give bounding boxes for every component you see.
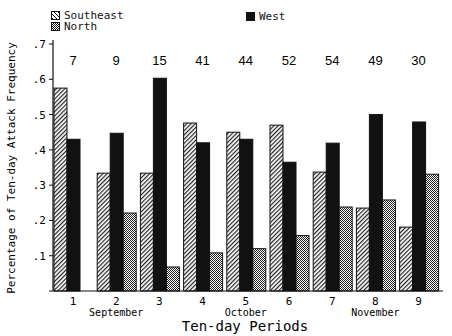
bar-west-9: [413, 122, 426, 291]
bar-southeast-2: [97, 173, 110, 291]
bar-north-4: [210, 253, 223, 291]
y-tick-label: .2: [33, 214, 46, 227]
x-tick-label: 4: [199, 295, 206, 308]
bar-west-3: [153, 78, 166, 291]
bar-north-7: [339, 207, 352, 291]
count-annotation: 54: [325, 53, 339, 68]
bar-west-2: [110, 133, 123, 291]
bar-southeast-3: [140, 173, 153, 291]
x-tick-label: 1: [70, 295, 77, 308]
x-tick-label: 7: [329, 295, 336, 308]
y-tick-label: .5: [33, 109, 46, 122]
bar-southeast-1: [54, 88, 67, 291]
x-axis-title: Ten-day Periods: [182, 318, 308, 334]
month-label: November: [351, 307, 399, 318]
bars-group: [54, 78, 439, 291]
bar-north-9: [426, 174, 439, 291]
bar-north-8: [382, 200, 395, 291]
month-label: September: [89, 307, 143, 318]
bar-southeast-9: [400, 227, 413, 291]
y-tick-label: .3: [33, 179, 46, 192]
count-annotation: 49: [368, 53, 382, 68]
x-tick-label: 3: [156, 295, 163, 308]
count-annotation: 15: [152, 53, 166, 68]
x-tick-label: 9: [415, 295, 422, 308]
bar-southeast-5: [227, 132, 240, 291]
bar-west-8: [369, 115, 382, 291]
bar-west-1: [67, 139, 80, 291]
month-label: October: [225, 307, 267, 318]
bar-west-7: [326, 143, 339, 291]
count-annotation: 41: [195, 53, 209, 68]
bar-west-6: [283, 162, 296, 291]
y-tick-label: .4: [33, 144, 47, 157]
y-tick-label: .7: [33, 38, 46, 51]
y-axis-title: Percentage of Ten-day Attack Frequency: [5, 42, 18, 294]
bar-north-3: [166, 267, 179, 291]
count-annotation: 44: [239, 53, 253, 68]
count-annotation: 9: [113, 53, 120, 68]
y-tick-label: .1: [33, 250, 46, 263]
count-annotation: 30: [411, 53, 425, 68]
bar-north-2: [123, 213, 136, 291]
bar-west-5: [240, 139, 253, 291]
bar-southeast-6: [270, 125, 283, 291]
bar-north-5: [253, 249, 266, 291]
count-annotation: 52: [282, 53, 296, 68]
bar-north-6: [296, 236, 309, 291]
y-tick-label: .6: [33, 73, 46, 86]
bar-southeast-7: [313, 172, 326, 291]
x-tick-label: 6: [286, 295, 293, 308]
bar-southeast-4: [184, 123, 197, 291]
bar-chart: 1729315441544652754849930.1.2.3.4.5.6.7S…: [0, 0, 452, 336]
bar-southeast-8: [356, 208, 369, 291]
count-annotation: 7: [69, 53, 76, 68]
bar-west-4: [197, 143, 210, 291]
